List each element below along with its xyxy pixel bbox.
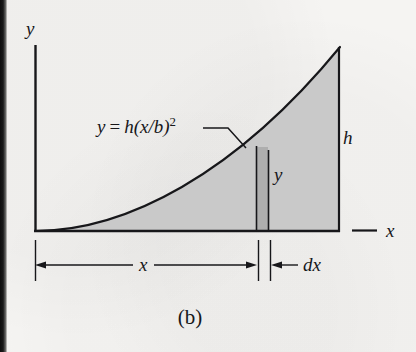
- shaded-area-under-curve: [35, 47, 340, 231]
- x-axis-label: x: [386, 221, 394, 240]
- dim-arrow-dx-left: [271, 262, 282, 269]
- dim-arrow-x-left: [35, 262, 46, 269]
- height-label-h: h: [343, 128, 353, 147]
- equation-leader-line: [203, 128, 246, 148]
- curve-equation-label: y=h(x/b)2: [97, 116, 176, 136]
- dimension-label-dx: dx: [303, 255, 321, 274]
- equation-rhs: h(x/b): [124, 116, 169, 137]
- figure-caption: (b): [0, 307, 380, 328]
- strip-height-label-y: y: [274, 165, 282, 184]
- y-axis-label: y: [26, 19, 34, 38]
- equation-exponent: 2: [170, 114, 176, 129]
- equation-equals: =: [109, 116, 120, 137]
- differential-strip-dx: [256, 147, 268, 231]
- figure-container: y x h y y=h(x/b)2 x dx (b): [0, 0, 416, 352]
- dimension-label-x: x: [139, 255, 147, 274]
- parabola-plot: [0, 0, 416, 352]
- equation-lhs: y: [97, 116, 105, 137]
- dim-arrow-x-right: [246, 262, 257, 269]
